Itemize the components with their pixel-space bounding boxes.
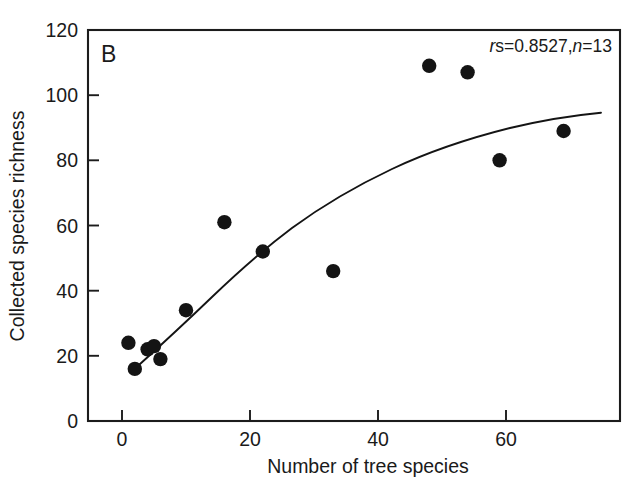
data-point (217, 215, 231, 229)
y-tick-label: 100 (45, 84, 78, 106)
panel-label: B (101, 41, 116, 67)
y-tick-label: 0 (67, 410, 78, 432)
y-axis-ticks (88, 30, 99, 421)
y-tick-label: 20 (56, 345, 78, 367)
data-points (121, 59, 571, 376)
r-value: =0.8527, (504, 36, 573, 56)
data-point (556, 124, 570, 138)
y-tick-label: 120 (45, 19, 78, 41)
data-point (179, 303, 193, 317)
data-point (256, 244, 270, 258)
n-symbol: n (573, 36, 583, 56)
data-point (422, 59, 436, 73)
x-tick-label: 60 (495, 428, 517, 450)
scatter-plot: 0 20 40 60 80 100 120 0 20 40 60 Number … (0, 0, 644, 487)
figure-panel-b: 0 20 40 60 80 100 120 0 20 40 60 Number … (0, 0, 644, 487)
data-point (147, 339, 161, 353)
n-value: =13 (582, 36, 612, 56)
plot-frame (88, 30, 620, 421)
statistics-annotation: rs=0.8527,n=13 (489, 36, 612, 56)
data-point (492, 153, 506, 167)
x-tick-label: 0 (117, 428, 128, 450)
x-tick-label: 40 (367, 428, 389, 450)
y-tick-label: 40 (56, 280, 78, 302)
x-axis-title: Number of tree species (267, 455, 469, 477)
data-point (121, 336, 135, 350)
y-axis-title: Collected species richness (6, 110, 28, 341)
data-point (326, 264, 340, 278)
y-tick-label: 60 (56, 215, 78, 237)
x-tick-label: 20 (239, 428, 261, 450)
data-point (128, 362, 142, 376)
x-axis-ticks (122, 410, 506, 421)
r-subscript: s (495, 36, 504, 56)
y-tick-label: 80 (56, 149, 78, 171)
data-point (460, 65, 474, 79)
fitted-curve (135, 113, 601, 369)
y-axis-tick-labels: 0 20 40 60 80 100 120 (45, 19, 78, 432)
x-axis-tick-labels: 0 20 40 60 (117, 428, 517, 450)
data-point (153, 352, 167, 366)
